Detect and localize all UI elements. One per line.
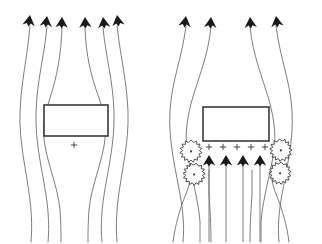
flow-arrow-icon [270,15,284,28]
inner-flow-arrow-icon [203,155,215,167]
temperature-plus-marker [220,144,226,150]
vegetation-bush-icon [268,138,293,163]
streamline [276,26,292,242]
figure-root [0,0,322,244]
streamline [20,26,32,242]
flow-arrow-icon [22,14,36,27]
temperature-plus-marker [234,144,240,150]
flow-arrow-icon [204,17,217,29]
building-block [203,107,269,141]
temperature-plus-marker [206,144,212,150]
right-panel [170,15,294,242]
left-panel [20,14,128,242]
temperature-plus-marker [71,142,77,148]
flow-arrow-icon [178,15,192,28]
flow-arrow-icon [244,17,257,29]
temperature-plus-row [206,144,268,150]
inner-flow-arrow-icon [237,155,249,167]
airflow-diagram-svg [0,0,322,244]
streamline [170,26,186,242]
streamline [250,170,252,242]
temperature-plus-marker [262,144,268,150]
inner-flow-arrow-icon [220,155,232,167]
inner-flow-arrow-icon [254,155,266,167]
building-block [44,105,108,136]
temperature-plus-marker [248,144,254,150]
flow-arrow-icon [55,17,68,29]
flow-arrow-icon [111,14,125,27]
right-panel-inner-arrows [203,155,266,242]
streamline [116,26,128,242]
left-panel-arrowheads [22,14,124,29]
flow-arrow-icon [97,16,111,29]
flow-arrow-icon [39,15,53,28]
flow-arrow-icon [79,17,92,29]
vegetation-bush-icon [180,140,202,162]
right-panel-arrowheads [178,15,283,29]
